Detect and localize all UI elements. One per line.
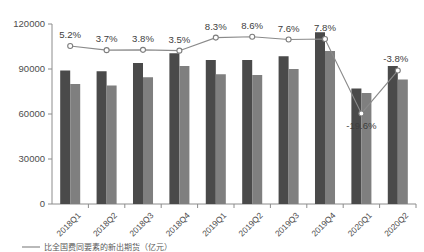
growth-label-2019Q2: 8.6% bbox=[241, 20, 263, 31]
y-axis-ticks bbox=[48, 24, 52, 204]
bar-dark bbox=[133, 63, 143, 204]
bar-light bbox=[70, 84, 80, 204]
growth-label-2019Q3: 7.6% bbox=[278, 23, 300, 34]
bar-dark bbox=[206, 60, 216, 204]
bar-dark bbox=[60, 71, 70, 205]
y-tick-label-4: 120000 bbox=[13, 18, 45, 29]
growth-marker bbox=[104, 48, 109, 53]
bar-dark bbox=[242, 60, 252, 204]
bar-light bbox=[361, 93, 371, 204]
x-tick-label-2019Q1: 2019Q1 bbox=[200, 210, 228, 238]
growth-label-2018Q1: 5.2% bbox=[59, 29, 81, 40]
quarterly-bar-line-chart: 0 30000 60000 90000 120000 2018Q12018Q22… bbox=[0, 0, 424, 252]
caption-group: 比全国费同要素的新出期货（亿元） bbox=[22, 242, 172, 252]
bar-light bbox=[398, 80, 408, 205]
growth-marker bbox=[177, 48, 182, 53]
bar-dark bbox=[351, 89, 361, 205]
x-tick-label-2019Q2: 2019Q2 bbox=[236, 210, 264, 238]
growth-line-markers bbox=[68, 34, 401, 116]
x-tick-label-2018Q4: 2018Q4 bbox=[164, 210, 192, 238]
growth-marker bbox=[286, 37, 291, 42]
growth-marker bbox=[213, 35, 218, 40]
x-axis-group: 2018Q12018Q22018Q32018Q42019Q12019Q22019… bbox=[52, 204, 416, 238]
growth-marker bbox=[395, 68, 400, 73]
x-tick-label-2020Q2: 2020Q2 bbox=[382, 210, 410, 238]
growth-marker bbox=[250, 34, 255, 39]
growth-label-2018Q2: 3.7% bbox=[96, 33, 118, 44]
caption-label: 比全国费同要素的新出期货（亿元） bbox=[44, 242, 172, 252]
growth-marker bbox=[323, 36, 328, 41]
y-tick-label-2: 60000 bbox=[19, 108, 45, 119]
growth-marker bbox=[359, 111, 364, 116]
growth-line-path bbox=[70, 37, 398, 114]
growth-label-2018Q3: 3.8% bbox=[132, 33, 154, 44]
x-axis-ticks bbox=[88, 204, 416, 208]
x-axis-tick-labels: 2018Q12018Q22018Q32018Q42019Q12019Q22019… bbox=[54, 210, 410, 238]
x-tick-label-2019Q4: 2019Q4 bbox=[309, 210, 337, 238]
bar-light bbox=[107, 86, 117, 205]
y-axis-group: 0 30000 60000 90000 120000 bbox=[13, 18, 52, 209]
bar-dark bbox=[279, 56, 289, 204]
growth-label-2018Q4: 3.5% bbox=[168, 34, 190, 45]
growth-marker bbox=[141, 47, 146, 52]
bar-dark bbox=[388, 66, 398, 204]
bar-light bbox=[252, 75, 262, 204]
bar-light bbox=[216, 74, 226, 204]
y-tick-label-0: 0 bbox=[40, 198, 45, 209]
growth-label-2019Q1: 8.3% bbox=[205, 21, 227, 32]
y-tick-label-1: 30000 bbox=[19, 153, 45, 164]
bar-light bbox=[179, 66, 189, 204]
bar-dark bbox=[97, 71, 107, 204]
x-tick-label-2020Q1: 2020Q1 bbox=[346, 210, 374, 238]
bar-light bbox=[143, 77, 153, 204]
growth-marker bbox=[68, 44, 73, 49]
growth-label-2019Q4: 7.8% bbox=[314, 22, 336, 33]
growth-label-2020Q2: -3.8% bbox=[383, 53, 409, 64]
x-tick-label-2018Q1: 2018Q1 bbox=[54, 210, 82, 238]
chart-container: 0 30000 60000 90000 120000 2018Q12018Q22… bbox=[0, 0, 424, 252]
x-tick-label-2018Q3: 2018Q3 bbox=[127, 210, 155, 238]
bar-light bbox=[289, 69, 299, 204]
y-tick-label-3: 90000 bbox=[19, 63, 45, 74]
growth-label-2020Q1: -19.6% bbox=[346, 120, 377, 131]
bar-dark bbox=[315, 32, 325, 204]
x-tick-label-2019Q3: 2019Q3 bbox=[273, 210, 301, 238]
bar-dark bbox=[169, 53, 179, 204]
bar-light bbox=[325, 51, 335, 204]
bars-layer bbox=[60, 32, 408, 204]
x-tick-label-2018Q2: 2018Q2 bbox=[91, 210, 119, 238]
